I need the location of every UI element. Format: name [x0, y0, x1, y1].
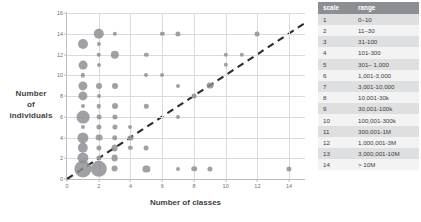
gridline-vertical [257, 13, 258, 179]
data-bubble [111, 144, 118, 151]
y-tick-mark [64, 116, 67, 117]
data-bubble [78, 81, 87, 90]
cell-scale: 4 [318, 47, 353, 58]
data-bubble [74, 160, 91, 177]
table-row: 14> 10M [318, 159, 419, 170]
data-bubble [112, 125, 117, 130]
cell-range: 1,000,001-3M [353, 137, 419, 148]
cell-scale: 5 [318, 59, 353, 70]
data-bubble [96, 114, 101, 119]
data-bubble [128, 135, 133, 140]
table-body: 10–10211–30331-1004101-3005301– 1,00061,… [318, 14, 419, 171]
data-bubble [97, 104, 101, 108]
data-bubble [143, 165, 150, 172]
x-tick-mark [289, 179, 290, 182]
data-bubble [94, 29, 104, 39]
table-row: 331-100 [318, 36, 419, 47]
cell-range: 11–30 [353, 25, 419, 36]
data-bubble [112, 114, 117, 119]
table-row: 5301– 1,000 [318, 59, 419, 70]
table-row: 4101-300 [318, 47, 419, 58]
y-axis-title-line-1: Number [2, 88, 60, 99]
x-tick-label: 6 [161, 183, 164, 189]
cell-range: 301– 1,000 [353, 59, 419, 70]
y-tick-label: 14 [57, 31, 63, 37]
y-tick-mark [64, 96, 67, 97]
column-header-range: range [353, 2, 419, 14]
gridline-vertical [130, 13, 131, 179]
table-row: 133,000,001-10M [318, 148, 419, 159]
y-tick-mark [64, 75, 67, 76]
x-tick-label: 8 [192, 183, 195, 189]
x-axis-title: Number of classes [66, 198, 305, 207]
data-bubble [96, 52, 101, 57]
table-row: 810,001-30k [318, 92, 419, 103]
table-row: 11300,001-1M [318, 126, 419, 137]
data-bubble [81, 73, 85, 77]
plot-area: 024681012141602468101214 [66, 13, 305, 180]
y-tick-label: 2 [60, 155, 63, 161]
cell-range: 101-300 [353, 47, 419, 58]
gridline-horizontal [67, 13, 305, 14]
cell-range: 100,001-300k [353, 114, 419, 125]
data-bubble [97, 94, 101, 98]
y-tick-mark [64, 33, 67, 34]
cell-scale: 1 [318, 14, 353, 25]
cell-range: 0–10 [353, 14, 419, 25]
column-header-scale: scale [318, 2, 353, 14]
gridline-horizontal [67, 138, 305, 139]
data-bubble [78, 39, 88, 49]
data-bubble [112, 32, 116, 36]
data-bubble [160, 32, 164, 36]
data-bubble [76, 110, 89, 123]
data-bubble [97, 63, 101, 67]
data-bubble [206, 82, 213, 89]
cell-scale: 14 [318, 159, 353, 170]
gridline-vertical [226, 13, 227, 179]
table-row: 61,001-3,000 [318, 70, 419, 81]
table-row: 930,001-100k [318, 103, 419, 114]
x-tick-mark [193, 179, 194, 182]
bubble-chart: Number of individuals 024681012141602468… [0, 0, 316, 222]
x-tick-label: 10 [223, 183, 229, 189]
gridline-vertical [162, 13, 163, 179]
gridline-horizontal [67, 158, 305, 159]
data-bubble [96, 125, 101, 130]
x-tick-mark [162, 179, 163, 182]
data-bubble [111, 165, 118, 172]
y-tick-mark [64, 54, 67, 55]
data-bubble [223, 63, 227, 67]
data-bubble [287, 166, 292, 171]
y-tick-mark [64, 137, 67, 138]
data-bubble [144, 145, 149, 150]
table-row: 10100,001-300k [318, 114, 419, 125]
data-bubble [91, 160, 107, 176]
x-tick-label: 0 [65, 183, 68, 189]
data-bubble [128, 125, 132, 129]
cell-range: 1,001-3,000 [353, 70, 419, 81]
table-row: 73,001-10,000 [318, 81, 419, 92]
y-tick-mark [64, 158, 67, 159]
data-bubble [95, 134, 102, 141]
cell-scale: 9 [318, 103, 353, 114]
data-bubble [144, 52, 148, 56]
cell-range: 300,001-1M [353, 126, 419, 137]
table-row: 211–30 [318, 25, 419, 36]
x-tick-label: 12 [254, 183, 260, 189]
cell-scale: 10 [318, 114, 353, 125]
data-bubble [160, 73, 164, 77]
x-tick-mark [225, 179, 226, 182]
y-tick-label: 8 [60, 93, 63, 99]
y-axis-title-line-2: of [2, 99, 60, 110]
data-bubble [112, 103, 118, 109]
x-tick-mark [98, 179, 99, 182]
y-tick-label: 12 [57, 52, 63, 58]
data-bubble [96, 145, 101, 150]
data-bubble [144, 73, 148, 77]
data-bubble [78, 60, 87, 69]
y-tick-label: 6 [60, 114, 63, 120]
cell-range: 3,001-10,000 [353, 81, 419, 92]
x-tick-mark [130, 179, 131, 182]
data-bubble [176, 167, 180, 171]
data-bubble [81, 125, 85, 129]
